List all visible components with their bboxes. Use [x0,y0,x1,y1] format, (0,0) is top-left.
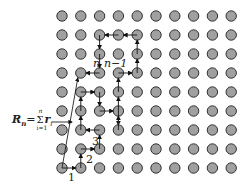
lattice-point [226,87,236,97]
lattice-point [170,68,180,78]
lattice-point [226,30,236,40]
lattice-point [132,11,142,21]
lattice-point [151,11,161,21]
step-label-n-minus-1: n−1 [104,58,127,69]
lattice-point [188,11,198,21]
lattice-point [76,49,86,59]
lattice-point [76,30,86,40]
lattice-point [226,68,236,78]
lattice-point [151,87,161,97]
lattice-point [188,87,198,97]
step-label-1: 1 [68,172,75,183]
lattice-point [207,68,217,78]
step-label-2: 2 [86,154,93,165]
lattice-point [57,87,67,97]
lattice-point [188,163,198,173]
lattice-point [151,106,161,116]
lattice-point [151,30,161,40]
lattice-point [226,11,236,21]
lattice-point [188,125,198,135]
lattice-point [207,144,217,154]
lattice-point [226,49,236,59]
step-label-n: n [93,58,100,69]
lattice-point [132,125,142,135]
lattice-point [151,125,161,135]
lattice-point [170,125,180,135]
lattice-point [226,106,236,116]
lattice-point [170,106,180,116]
lattice-point [76,11,86,21]
lattice-point [76,68,86,78]
sum-lower-limit: i=1 [36,124,47,131]
lattice-point [226,163,236,173]
lattice-point [207,87,217,97]
lattice-point [132,87,142,97]
lattice-point [151,144,161,154]
lattice-point [113,11,123,21]
lattice-point [57,30,67,40]
summand-subscript: i [50,120,52,128]
lattice-point [207,49,217,59]
lattice-point [57,106,67,116]
lattice-svg [0,0,243,188]
lattice-point [57,11,67,21]
lattice-point [57,68,67,78]
lattice-point [170,49,180,59]
summation: nΣi=1 [36,114,43,125]
lattice-point [57,125,67,135]
lattice-point [170,87,180,97]
lattice-point [188,144,198,154]
lattice-point [188,49,198,59]
lattice-point [113,144,123,154]
random-walk-diagram: 1 2 3 n n−1 Rn=nΣi=1ri [0,0,243,188]
lattice-point [132,106,142,116]
resultant-symbol: R [12,113,21,126]
lattice-point [151,49,161,59]
sum-upper-limit: n [38,107,42,114]
lattice-point [207,106,217,116]
lattice-point [151,68,161,78]
lattice-point [207,30,217,40]
lattice-point [170,11,180,21]
step-label-3: 3 [92,136,99,147]
lattice-point [151,163,161,173]
lattice-point [57,49,67,59]
lattice-point [226,144,236,154]
lattice-point [207,125,217,135]
lattice-point [207,11,217,21]
lattice-point [170,30,180,40]
lattice-point [94,11,104,21]
lattice-point [132,163,142,173]
equals-sign: = [26,113,35,126]
lattice-point [113,163,123,173]
lattice-point [188,106,198,116]
lattice-point [207,163,217,173]
lattice-point [170,163,180,173]
lattice-point [170,144,180,154]
lattice-point [188,30,198,40]
lattice-point [226,125,236,135]
lattice-point [132,144,142,154]
lattice-point [94,163,104,173]
resultant-equation: Rn=nΣi=1ri [12,113,53,128]
lattice-point [188,68,198,78]
